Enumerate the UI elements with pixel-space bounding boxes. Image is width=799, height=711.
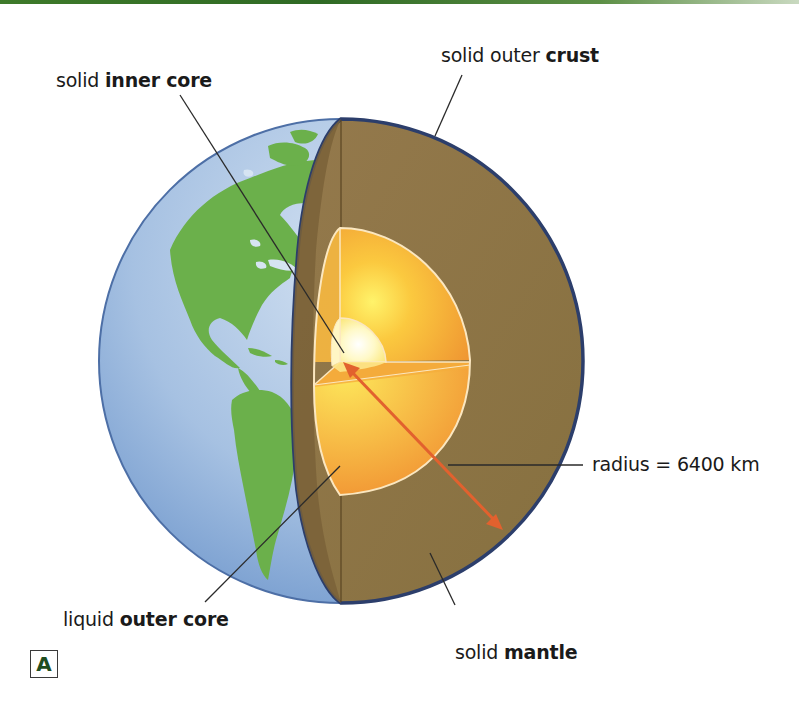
- panel-label-badge: A: [30, 650, 58, 678]
- label-radius: radius = 6400 km: [592, 455, 759, 474]
- label-outer-core-prefix: liquid: [63, 608, 114, 630]
- label-radius-text: radius = 6400 km: [592, 453, 759, 475]
- label-inner-core: solid inner core: [56, 71, 212, 90]
- label-outer-core-bold: outer core: [120, 608, 229, 630]
- label-mantle: solid mantle: [455, 643, 577, 662]
- label-outer-core: liquid outer core: [63, 610, 229, 629]
- leader-crust: [435, 75, 462, 136]
- panel-label-text: A: [36, 652, 51, 676]
- label-inner-core-bold: inner core: [105, 69, 212, 91]
- label-crust-prefix: solid outer: [441, 44, 540, 66]
- label-mantle-prefix: solid: [455, 641, 498, 663]
- label-crust-bold: crust: [545, 44, 599, 66]
- label-mantle-bold: mantle: [504, 641, 577, 663]
- earth-cutaway-diagram: [0, 0, 799, 711]
- label-crust: solid outer crust: [441, 46, 599, 65]
- label-inner-core-prefix: solid: [56, 69, 99, 91]
